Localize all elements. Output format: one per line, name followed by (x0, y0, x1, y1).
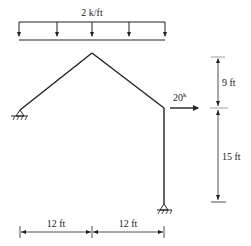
left-rafter (20, 53, 92, 110)
load-arrow-icon (17, 22, 167, 37)
horizontal-dimension: 12 ft 12 ft (20, 218, 164, 238)
point-load-unit: k (183, 91, 187, 99)
frame-diagram: 2 k/ft 20k (0, 0, 251, 246)
right-rafter (92, 53, 164, 108)
dimension-label-12ft-left: 12 ft (47, 218, 66, 229)
right-pin-support-icon (157, 204, 172, 214)
point-load-label: 20 (173, 92, 183, 103)
frame-members (20, 53, 164, 204)
vertical-dimension: 9 ft 15 ft (210, 57, 241, 202)
svg-text:20k: 20k (173, 91, 187, 103)
point-load: 20k (170, 91, 198, 108)
distributed-load-label: 2 k/ft (81, 7, 103, 18)
dimension-label-12ft-right: 12 ft (119, 218, 138, 229)
left-pin-support-icon (11, 110, 28, 120)
distributed-load: 2 k/ft (17, 7, 167, 40)
dimension-label-9ft: 9 ft (222, 77, 236, 88)
dimension-label-15ft: 15 ft (222, 151, 241, 162)
